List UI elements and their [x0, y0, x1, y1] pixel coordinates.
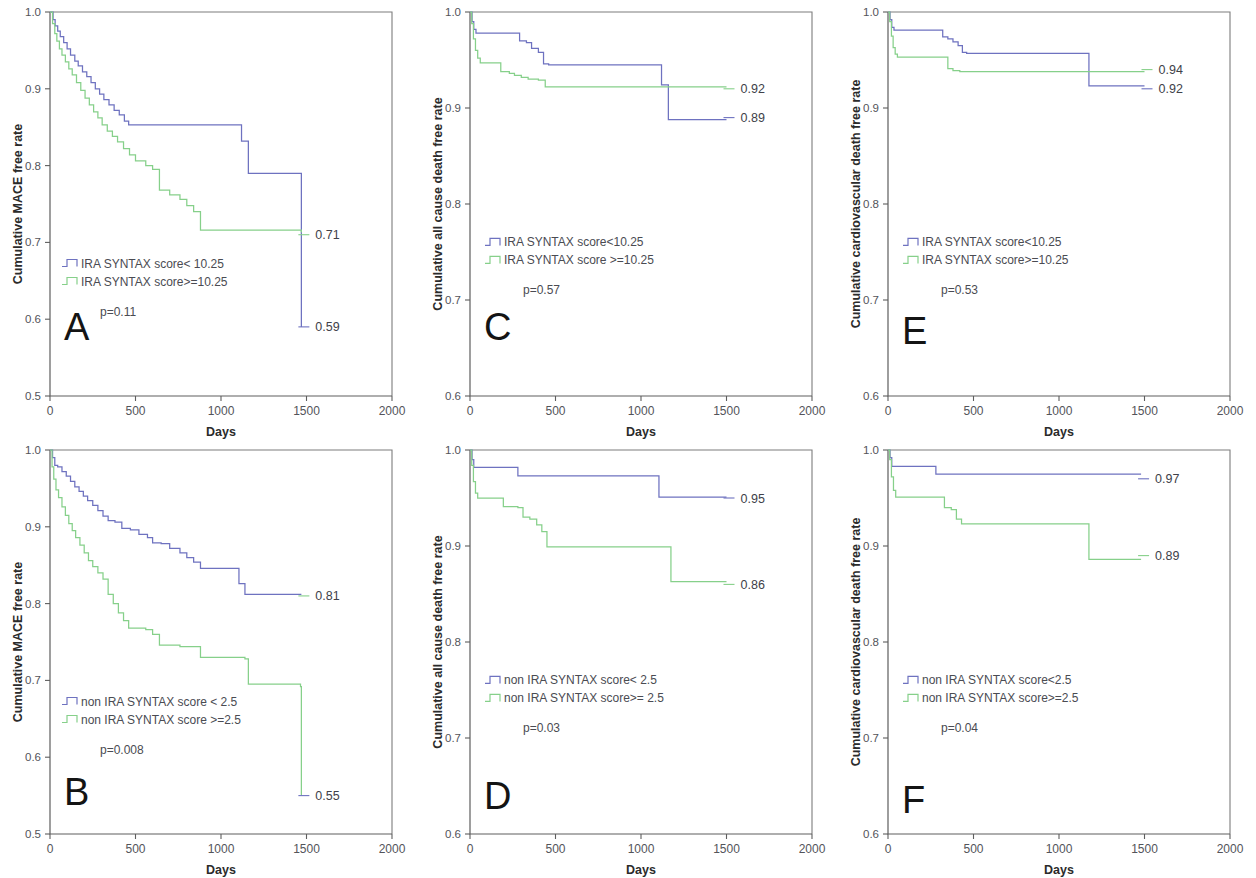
panel-c: 1.00.90.80.70.60500100015002000DaysCumul…: [420, 0, 838, 439]
y-tick-label: 0.6: [863, 390, 879, 402]
legend-step-icon: [485, 676, 500, 683]
x-axis-title: Days: [626, 863, 656, 877]
chart-b: 1.00.90.80.70.60.50500100015002000DaysCu…: [0, 438, 418, 877]
legend-step-icon: [485, 256, 500, 263]
y-axis-title: Cumulative cardiovascular death free rat…: [849, 518, 863, 767]
legend-label: non IRA SYNTAX score>=2.5: [922, 691, 1079, 705]
end-value-label: 0.59: [315, 320, 339, 334]
kaplan-meier-figure: 1.00.90.80.70.60.50500100015002000DaysCu…: [0, 0, 1256, 878]
p-value-label: p=0.11: [100, 305, 136, 319]
p-value-label: p=0.57: [523, 283, 560, 297]
x-tick-label: 1500: [1131, 404, 1158, 418]
y-tick-label: 0.8: [863, 636, 879, 648]
y-axis-title: Cumulative MACE free rate: [11, 562, 25, 723]
x-tick-label: 1000: [208, 404, 235, 418]
p-value-label: p=0.04: [941, 721, 978, 735]
y-tick-label: 0.6: [25, 313, 41, 325]
panel-a: 1.00.90.80.70.60.50500100015002000DaysCu…: [0, 0, 418, 439]
x-tick-label: 500: [125, 404, 145, 418]
y-tick-label: 0.9: [25, 83, 41, 95]
x-tick-label: 1000: [1046, 404, 1073, 418]
panel-letter-d: D: [484, 775, 511, 817]
legend-step-icon: [903, 694, 918, 701]
end-value-label: 0.81: [315, 589, 339, 603]
panel-b: 1.00.90.80.70.60.50500100015002000DaysCu…: [0, 438, 418, 877]
y-tick-label: 0.7: [863, 294, 879, 306]
x-tick-label: 2000: [799, 404, 826, 418]
legend-label: IRA SYNTAX score< 10.25: [81, 257, 224, 271]
x-tick-label: 2000: [1217, 404, 1244, 418]
y-tick-label: 1.0: [445, 6, 461, 18]
panel-d: 1.00.90.80.70.60500100015002000DaysCumul…: [420, 438, 838, 877]
x-tick-label: 0: [47, 404, 54, 418]
legend-step-icon: [485, 694, 500, 701]
axis-lines: [50, 450, 392, 834]
x-axis-title: Days: [1044, 863, 1074, 877]
panel-letter-a: A: [64, 306, 90, 348]
legend-label: non IRA SYNTAX score< 2.5: [504, 673, 657, 687]
legend-entry: IRA SYNTAX score<10.25: [903, 235, 1062, 249]
y-tick-label: 1.0: [25, 444, 41, 456]
legend-label: IRA SYNTAX score>=10.25: [81, 275, 228, 289]
legend-entry: non IRA SYNTAX score>= 2.5: [485, 691, 664, 705]
chart-c: 1.00.90.80.70.60500100015002000DaysCumul…: [420, 0, 838, 439]
x-tick-label: 1500: [1131, 842, 1158, 856]
y-tick-label: 0.9: [445, 540, 461, 552]
axis-lines: [888, 450, 1230, 834]
y-axis-title: Cumulative all cause death free rate: [431, 97, 445, 310]
x-tick-label: 0: [885, 404, 892, 418]
legend-entry: IRA SYNTAX score<10.25: [485, 235, 644, 249]
end-value-label: 0.92: [741, 82, 765, 96]
end-value-label: 0.89: [741, 111, 765, 125]
legend-label: IRA SYNTAX score >=10.25: [504, 253, 654, 267]
x-tick-label: 500: [545, 404, 565, 418]
km-curve-group2: [888, 12, 1145, 72]
y-tick-label: 0.5: [25, 828, 41, 840]
y-tick-label: 1.0: [25, 6, 41, 18]
plot-frame: [888, 450, 1230, 834]
p-value-label: p=0.03: [523, 721, 560, 735]
y-tick-label: 0.6: [445, 390, 461, 402]
legend-entry: IRA SYNTAX score >=10.25: [485, 253, 654, 267]
y-tick-label: 0.8: [445, 636, 461, 648]
y-tick-label: 0.8: [445, 198, 461, 210]
end-value-label: 0.55: [315, 789, 339, 803]
end-value-label: 0.92: [1159, 82, 1183, 96]
y-tick-label: 0.7: [25, 674, 41, 686]
legend-label: non IRA SYNTAX score >=2.5: [81, 713, 241, 727]
legend-entry: IRA SYNTAX score>=10.25: [903, 253, 1069, 267]
km-curve-group1: [50, 450, 301, 594]
x-axis-title: Days: [206, 425, 236, 439]
y-tick-label: 0.7: [863, 732, 879, 744]
legend-entry: non IRA SYNTAX score >=2.5: [62, 713, 241, 727]
y-tick-label: 1.0: [445, 444, 461, 456]
panel-f: 1.00.90.80.70.60500100015002000DaysCumul…: [838, 438, 1256, 877]
x-tick-label: 1000: [628, 404, 655, 418]
x-tick-label: 500: [545, 842, 565, 856]
km-curve-group2: [50, 12, 301, 232]
x-tick-label: 2000: [379, 404, 406, 418]
panel-e: 1.00.90.80.70.60500100015002000DaysCumul…: [838, 0, 1256, 439]
legend-label: non IRA SYNTAX score < 2.5: [81, 695, 238, 709]
legend-label: non IRA SYNTAX score<2.5: [922, 673, 1072, 687]
axis-lines: [50, 12, 392, 396]
y-tick-label: 0.6: [25, 751, 41, 763]
panel-letter-e: E: [902, 310, 927, 352]
x-tick-label: 0: [467, 404, 474, 418]
legend-entry: non IRA SYNTAX score>=2.5: [903, 691, 1079, 705]
plot-frame: [50, 450, 392, 834]
legend-step-icon: [903, 256, 918, 263]
axis-lines: [470, 12, 812, 396]
km-curve-group1: [470, 450, 727, 497]
end-value-label: 0.97: [1155, 472, 1179, 486]
x-tick-label: 500: [125, 842, 145, 856]
x-tick-label: 1500: [293, 842, 320, 856]
x-tick-label: 500: [963, 842, 983, 856]
x-tick-label: 1000: [628, 842, 655, 856]
y-axis-title: Cumulative all cause death free rate: [431, 535, 445, 748]
y-tick-label: 0.9: [863, 540, 879, 552]
end-value-label: 0.71: [315, 228, 339, 242]
x-tick-label: 2000: [799, 842, 826, 856]
x-axis-title: Days: [626, 425, 656, 439]
y-tick-label: 0.6: [445, 828, 461, 840]
